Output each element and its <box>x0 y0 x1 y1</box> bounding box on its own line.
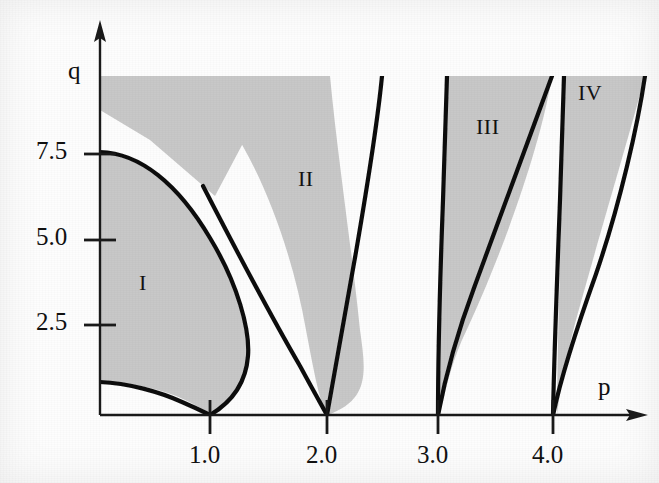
region-label-II: II <box>298 168 314 190</box>
y-axis-label: q <box>68 58 81 83</box>
region-IV-shape <box>557 76 645 415</box>
y-tick-label-2.5: 2.5 <box>36 309 67 334</box>
x-axis-label: p <box>598 374 611 399</box>
region-label-III: III <box>476 116 499 138</box>
region-label-I: I <box>139 272 147 294</box>
y-tick-label-5.0: 5.0 <box>36 224 67 249</box>
figure-canvas: q p 7.5 5.0 2.5 1.0 2.0 3.0 4.0 I II III… <box>0 0 659 483</box>
x-tick-label-1.0: 1.0 <box>189 442 220 467</box>
x-tick-label-2.0: 2.0 <box>306 442 337 467</box>
stability-chart-svg <box>0 0 659 483</box>
y-tick-label-7.5: 7.5 <box>36 138 67 163</box>
x-tick-label-4.0: 4.0 <box>532 442 563 467</box>
region-label-IV: IV <box>578 82 602 104</box>
x-tick-label-3.0: 3.0 <box>417 442 448 467</box>
